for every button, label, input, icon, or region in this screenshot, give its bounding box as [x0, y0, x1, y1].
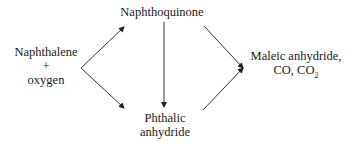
co-co2-prefix: CO, CO	[274, 63, 315, 77]
co2-subscript: 2	[314, 71, 318, 80]
node-reactant: Naphthalene + oxygen	[12, 45, 80, 87]
node-naphthoquinone: Naphthoquinone	[118, 5, 206, 19]
maleic-anhydride-label: Maleic anhydride,	[244, 49, 348, 63]
co-co2-label: CO, CO2	[244, 63, 348, 77]
phthalic-label: Phthalic	[132, 111, 198, 125]
node-phthalic-anhydride: Phthalic anhydride	[132, 111, 198, 139]
arrow-phthalic-anhydride-to-maleic-anhydride	[203, 68, 243, 110]
reactant-naphthalene-label: Naphthalene	[12, 45, 80, 59]
arrow-naphthalene-to-naphthoquinone	[81, 27, 124, 68]
reactant-plus-sign: +	[12, 59, 80, 73]
reactant-oxygen-label: oxygen	[12, 73, 80, 87]
naphthoquinone-label: Naphthoquinone	[118, 5, 206, 19]
arrow-naphthalene-to-phthalic-anhydride	[81, 68, 124, 108]
node-products: Maleic anhydride, CO, CO2	[244, 49, 348, 77]
arrow-naphthoquinone-to-maleic-anhydride	[204, 26, 243, 68]
anhydride-label: anhydride	[132, 125, 198, 139]
